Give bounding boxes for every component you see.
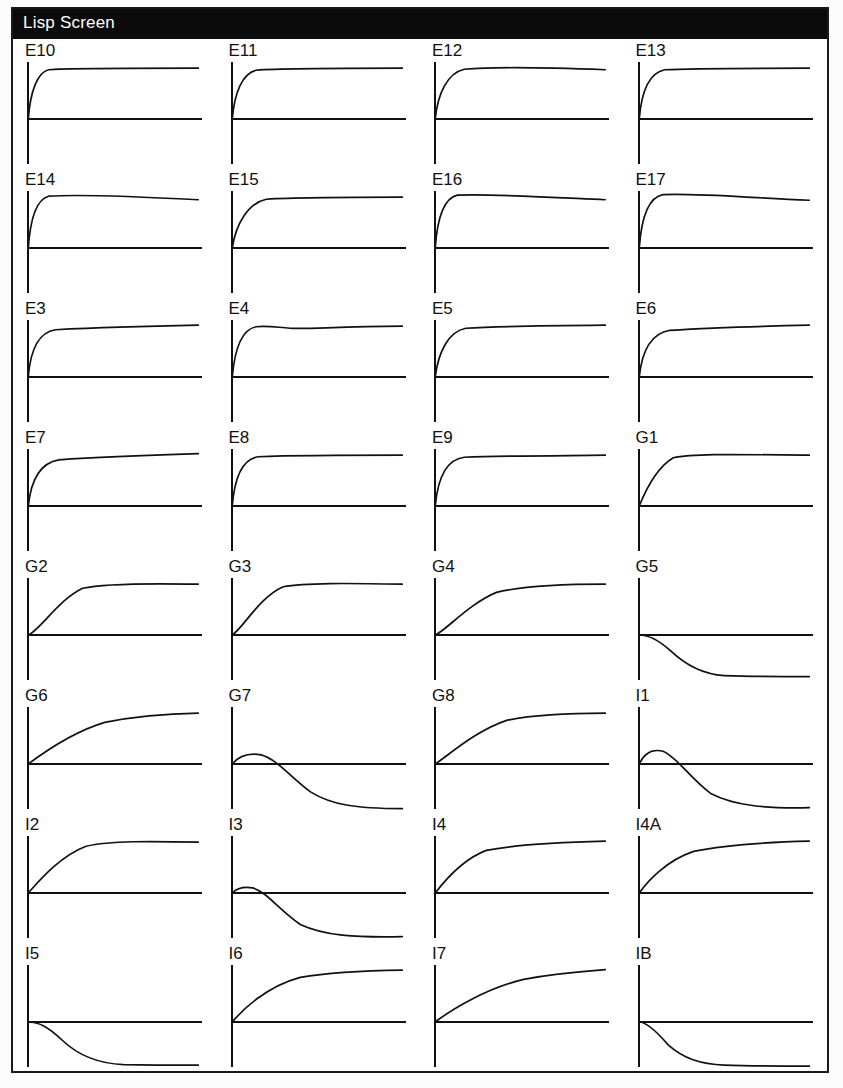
screenshot-page: Lisp Screen E10E11E12E13E14E15E16E17E3E4…	[0, 0, 843, 1088]
plot-cell-i5[interactable]: I5	[13, 942, 217, 1071]
plot-label: G1	[636, 428, 659, 448]
response-curve	[28, 195, 198, 248]
plot-cell-e9[interactable]: E9	[420, 426, 624, 555]
response-curve	[232, 68, 402, 119]
plot-label: E9	[432, 428, 453, 448]
plot-label: I5	[25, 944, 39, 964]
plot-label: E5	[432, 299, 453, 319]
response-curve	[639, 1022, 809, 1066]
plot-cell-i2[interactable]: I2	[13, 813, 217, 942]
plot-label: G3	[229, 557, 252, 577]
plot-label: G4	[432, 557, 455, 577]
plot-canvas	[13, 813, 217, 942]
plot-canvas	[420, 813, 624, 942]
plot-canvas	[420, 942, 624, 1071]
plot-cell-i7[interactable]: I7	[420, 942, 624, 1071]
plot-cell-e5[interactable]: E5	[420, 297, 624, 426]
plot-label: G2	[25, 557, 48, 577]
plot-cell-g6[interactable]: G6	[13, 684, 217, 813]
response-curve	[435, 584, 605, 635]
plot-cell-e8[interactable]: E8	[217, 426, 421, 555]
window-title-bar[interactable]: Lisp Screen	[13, 9, 827, 39]
plot-cell-g8[interactable]: G8	[420, 684, 624, 813]
plot-cell-e7[interactable]: E7	[13, 426, 217, 555]
response-curve	[435, 713, 605, 764]
plot-label: E8	[229, 428, 250, 448]
response-curve	[28, 325, 198, 377]
plot-cell-e6[interactable]: E6	[624, 297, 828, 426]
response-curve	[232, 887, 402, 937]
plot-label: I4	[432, 815, 446, 835]
plot-cell-e12[interactable]: E12	[420, 39, 624, 168]
plot-cell-g4[interactable]: G4	[420, 555, 624, 684]
plot-label: I4A	[636, 815, 662, 835]
plot-label: E3	[25, 299, 46, 319]
plot-cell-i4a[interactable]: I4A	[624, 813, 828, 942]
plot-label: IB	[636, 944, 652, 964]
plot-label: E13	[636, 41, 666, 61]
plot-label: I6	[229, 944, 243, 964]
plot-label: E10	[25, 41, 55, 61]
plot-cell-e15[interactable]: E15	[217, 168, 421, 297]
response-curve	[232, 197, 402, 248]
plot-cell-g3[interactable]: G3	[217, 555, 421, 684]
response-curve	[639, 325, 809, 377]
plot-label: G6	[25, 686, 48, 706]
response-curve	[28, 1022, 198, 1065]
response-curve	[28, 584, 198, 635]
response-curve	[435, 325, 605, 377]
response-curve	[232, 455, 402, 506]
plot-cell-i3[interactable]: I3	[217, 813, 421, 942]
plot-label: E16	[432, 170, 462, 190]
response-curve	[232, 754, 402, 808]
plot-cell-e17[interactable]: E17	[624, 168, 828, 297]
response-curve	[639, 455, 809, 506]
plot-grid: E10E11E12E13E14E15E16E17E3E4E5E6E7E8E9G1…	[13, 39, 827, 1071]
response-curve	[435, 970, 605, 1022]
plot-label: G7	[229, 686, 252, 706]
response-curve	[639, 194, 809, 248]
plot-cell-i1[interactable]: I1	[624, 684, 828, 813]
plot-cell-g5[interactable]: G5	[624, 555, 828, 684]
response-curve	[232, 584, 402, 635]
plot-cell-g1[interactable]: G1	[624, 426, 828, 555]
plot-cell-g7[interactable]: G7	[217, 684, 421, 813]
plot-canvas	[13, 942, 217, 1071]
response-curve	[28, 68, 198, 119]
response-curve	[435, 841, 605, 893]
plot-label: E14	[25, 170, 55, 190]
plot-label: E12	[432, 41, 462, 61]
plot-label: E4	[229, 299, 250, 319]
plot-cell-e16[interactable]: E16	[420, 168, 624, 297]
plot-cell-e4[interactable]: E4	[217, 297, 421, 426]
lisp-screen-window: Lisp Screen E10E11E12E13E14E15E16E17E3E4…	[11, 7, 829, 1073]
plot-label: I2	[25, 815, 39, 835]
plot-label: G5	[636, 557, 659, 577]
response-curve	[232, 970, 402, 1022]
plot-cell-i4[interactable]: I4	[420, 813, 624, 942]
response-curve	[28, 454, 198, 506]
plot-canvas	[217, 813, 421, 942]
plot-cell-e10[interactable]: E10	[13, 39, 217, 168]
plot-cell-e13[interactable]: E13	[624, 39, 828, 168]
response-curve	[639, 841, 809, 893]
plot-label: I7	[432, 944, 446, 964]
plot-cell-e3[interactable]: E3	[13, 297, 217, 426]
response-curve	[28, 842, 198, 893]
plot-label: I1	[636, 686, 650, 706]
response-curve	[639, 751, 809, 808]
plot-label: E17	[636, 170, 666, 190]
response-curve	[435, 68, 605, 119]
plot-label: E7	[25, 428, 46, 448]
plot-cell-g2[interactable]: G2	[13, 555, 217, 684]
response-curve	[232, 326, 402, 377]
plot-cell-ib[interactable]: IB	[624, 942, 828, 1071]
plot-cell-i6[interactable]: I6	[217, 942, 421, 1071]
plot-cell-e14[interactable]: E14	[13, 168, 217, 297]
response-curve	[639, 635, 809, 677]
plot-canvas	[217, 942, 421, 1071]
plot-cell-e11[interactable]: E11	[217, 39, 421, 168]
response-curve	[435, 455, 605, 506]
plot-label: G8	[432, 686, 455, 706]
plot-label: I3	[229, 815, 243, 835]
